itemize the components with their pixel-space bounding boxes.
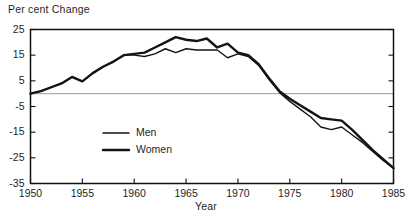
legend-label-men: Men: [136, 126, 156, 138]
x-tick-label: 1950: [11, 187, 51, 199]
x-tick-label: 1970: [218, 187, 258, 199]
y-tick-label: -25: [0, 151, 25, 163]
y-tick-label: 15: [0, 48, 25, 60]
plot-frame: [31, 30, 394, 184]
y-tick-label: 5: [0, 74, 25, 86]
y-tick-label: 25: [0, 23, 25, 35]
x-tick-label: 1980: [322, 187, 362, 199]
x-tick-label: 1975: [270, 187, 310, 199]
x-tick-label: 1960: [114, 187, 154, 199]
y-tick-label: -15: [0, 125, 25, 137]
series-line-women: [31, 37, 394, 168]
x-tick-label: 1985: [374, 187, 412, 199]
x-axis-label: Year: [0, 200, 412, 212]
y-tick-label: -5: [0, 100, 25, 112]
x-tick-label: 1965: [166, 187, 206, 199]
chart-figure: Per cent Change Year -35-25-15-551525 19…: [0, 0, 412, 220]
legend-label-women: Women: [136, 143, 172, 155]
x-tick-label: 1955: [62, 187, 102, 199]
series-line-men: [31, 49, 394, 168]
